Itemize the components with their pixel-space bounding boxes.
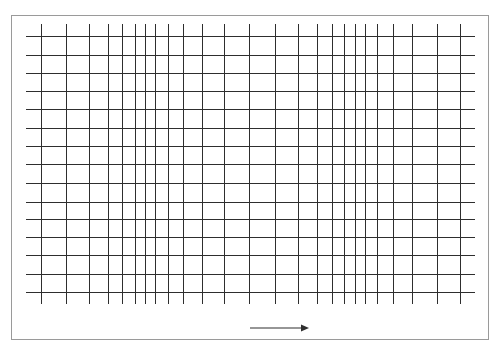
- horizontal-grid-lines: [26, 37, 475, 293]
- grid-diagram: [0, 0, 500, 349]
- arrow-right-icon: [250, 325, 309, 332]
- arrow-head: [301, 325, 309, 332]
- grid-canvas: [0, 0, 500, 349]
